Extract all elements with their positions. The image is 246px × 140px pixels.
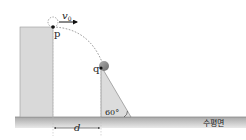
projectile-diagram: p v0 q 60° d 수평면 [0, 0, 246, 140]
point-q [99, 66, 102, 69]
label-d: d [74, 122, 80, 133]
label-ground: 수평면 [203, 118, 224, 128]
label-q: q [93, 63, 100, 74]
label-v0-subscript: 0 [68, 15, 72, 22]
label-angle: 60° [105, 108, 119, 117]
label-v0: v0 [62, 10, 72, 22]
cliff [20, 27, 53, 117]
label-p: p [54, 28, 60, 39]
